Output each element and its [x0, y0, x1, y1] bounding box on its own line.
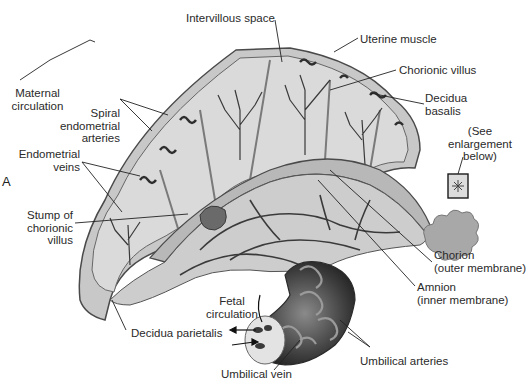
label-fetal-circulation: Fetal circulation — [202, 295, 262, 320]
label-chorion: Chorion (outer membrane) — [434, 249, 526, 274]
label-amnion: Amnion (inner membrane) — [417, 281, 508, 306]
label-line: villus — [20, 234, 73, 247]
label-uterine-muscle: Uterine muscle — [360, 33, 437, 46]
label-line: Chorion — [434, 249, 526, 262]
label-line: (See — [448, 125, 512, 138]
cord-cross-section — [245, 316, 285, 364]
label-line: (outer membrane) — [434, 262, 526, 275]
label-line: endometrial — [40, 120, 120, 133]
label-line: circulation — [202, 308, 262, 321]
label-line: (inner membrane) — [417, 294, 508, 307]
label-line: enlargement — [448, 138, 512, 151]
label-umbilical-arteries: Umbilical arteries — [360, 355, 448, 368]
label-line: arteries — [40, 132, 120, 145]
label-stump-of-chorionic-villus: Stump of chorionic villus — [20, 209, 73, 247]
label-line: Decidua — [425, 92, 467, 105]
label-line: Stump of — [20, 209, 73, 222]
label-umbilical-vein: Umbilical vein — [221, 368, 292, 381]
label-line: chorionic — [20, 222, 73, 235]
panel-letter: A — [2, 174, 11, 189]
label-line: basalis — [425, 105, 467, 118]
label-endometrial-veins: Endometrial veins — [10, 148, 80, 173]
label-line: below) — [448, 150, 512, 163]
label-chorionic-villus: Chorionic villus — [399, 64, 476, 77]
label-intervillous-space: Intervillous space — [186, 12, 275, 25]
label-decidua-basalis: Decidua basalis — [425, 92, 467, 117]
villus-stump — [200, 206, 226, 230]
label-decidua-parietalis: Decidua parietalis — [131, 327, 222, 340]
label-line: Endometrial — [10, 148, 80, 161]
label-spiral-endometrial-arteries: Spiral endometrial arteries — [40, 107, 120, 145]
label-line: veins — [10, 161, 80, 174]
label-line: Maternal — [10, 87, 65, 100]
label-line: Spiral — [40, 107, 120, 120]
label-see-enlargement: (See enlargement below) — [448, 125, 512, 163]
label-line: Amnion — [417, 281, 508, 294]
label-line: Fetal — [202, 295, 262, 308]
